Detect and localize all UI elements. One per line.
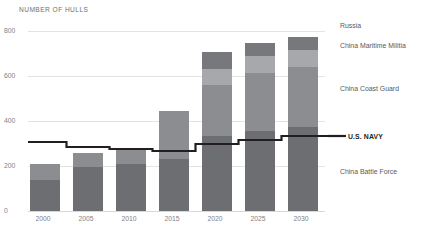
bar-2015[interactable] [159,111,189,211]
bar-segment-russia [202,52,232,69]
y-tick-label-0: 0 [4,207,24,214]
bar-segment-china-coast-guard [288,67,318,127]
legend-label-china-battle-force: China Battle Force [340,168,397,175]
x-tick-label-2015: 2015 [152,215,192,222]
y-tick-label-800: 800 [4,27,24,34]
bar-2025[interactable] [245,43,275,211]
bar-segment-china-battle-force [116,164,146,211]
gridline-0 [28,211,325,212]
x-tick-label-2030: 2030 [281,215,321,222]
bar-segment-china-maritime-militia [245,56,275,73]
bar-2030[interactable] [288,37,318,211]
bar-segment-russia [288,37,318,50]
gridline-600 [28,76,325,77]
bar-segment-china-coast-guard [73,153,103,167]
x-tick-label-2020: 2020 [195,215,235,222]
x-tick-label-2025: 2025 [238,215,278,222]
legend-label-us-navy: U.S. NAVY [348,133,383,140]
bar-segment-china-battle-force [288,127,318,211]
bar-2000[interactable] [30,164,60,211]
gridline-800 [28,31,325,32]
bar-segment-china-coast-guard [116,149,146,164]
plot-area [28,31,328,211]
bar-segment-russia [245,43,275,56]
bar-2020[interactable] [202,52,232,211]
y-tick-label-600: 600 [4,72,24,79]
bar-segment-china-coast-guard [202,85,232,136]
x-tick-label-2000: 2000 [23,215,63,222]
bar-segment-china-coast-guard [159,111,189,159]
y-axis-title: NUMBER OF HULLS [19,6,88,13]
legend-label-china-coast-guard: China Coast Guard [340,85,399,92]
bar-segment-china-maritime-militia [288,50,318,67]
bar-segment-china-battle-force [30,180,60,211]
bar-segment-china-battle-force [73,167,103,211]
x-tick-label-2005: 2005 [66,215,106,222]
y-tick-label-200: 200 [4,162,24,169]
y-tick-label-400: 400 [4,117,24,124]
legend-label-china-maritime-militia: China Maritime Militia [340,42,406,49]
bar-segment-china-coast-guard [30,164,60,180]
x-tick-label-2010: 2010 [109,215,149,222]
bar-segment-china-coast-guard [245,73,275,131]
bar-segment-china-battle-force [159,159,189,211]
bar-segment-china-battle-force [245,131,275,211]
chart-container: NUMBER OF HULLS 800 600 400 200 0 2000 2… [0,0,429,237]
bar-segment-china-battle-force [202,136,232,211]
bar-2010[interactable] [116,149,146,211]
bar-segment-china-maritime-militia [202,69,232,85]
bar-2005[interactable] [73,153,103,211]
legend-label-russia: Russia [340,22,361,29]
